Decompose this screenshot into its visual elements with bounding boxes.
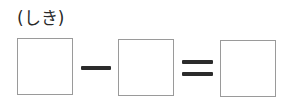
answer-box-minuend[interactable] xyxy=(17,38,73,95)
answer-box-result[interactable] xyxy=(220,40,276,97)
formula-label: (しき) xyxy=(17,4,64,29)
equals-bar-top xyxy=(182,60,213,64)
equals-bar-bottom xyxy=(182,72,213,76)
minus-sign xyxy=(81,66,111,70)
answer-box-subtrahend[interactable] xyxy=(118,39,174,96)
